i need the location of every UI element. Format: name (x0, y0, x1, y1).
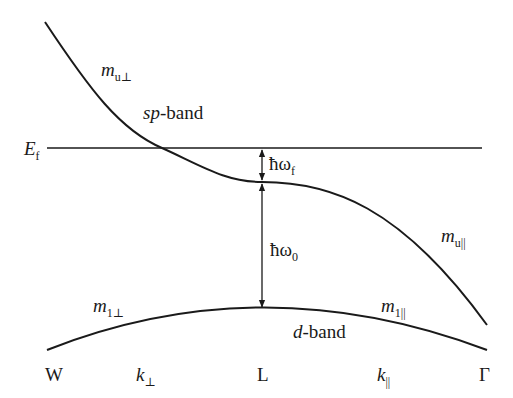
m-u-par-label: mu|| (441, 226, 466, 249)
l-point-label: L (257, 365, 269, 384)
diagram-canvas (0, 0, 513, 398)
gamma-point-label: Γ (479, 365, 490, 384)
sp-band-label: sp-band (143, 103, 203, 122)
m-1-par-label: m1|| (381, 296, 406, 319)
fermi-energy-label: Ef (24, 139, 40, 162)
m-u-perp-label: mu⊥ (101, 60, 132, 83)
k-par-label: k|| (377, 365, 390, 388)
hw-f-label: ħωf (269, 154, 295, 177)
k-perp-label: k⊥ (136, 365, 156, 388)
band-structure-diagram: mu⊥ sp-band Ef ħωf ħω0 mu|| m1⊥ m1|| d-b… (0, 0, 513, 398)
w-point-label: W (45, 365, 63, 384)
m-1-perp-label: m1⊥ (93, 296, 124, 319)
hw-0-label: ħω0 (270, 240, 298, 263)
d-band-label: d-band (293, 322, 346, 341)
